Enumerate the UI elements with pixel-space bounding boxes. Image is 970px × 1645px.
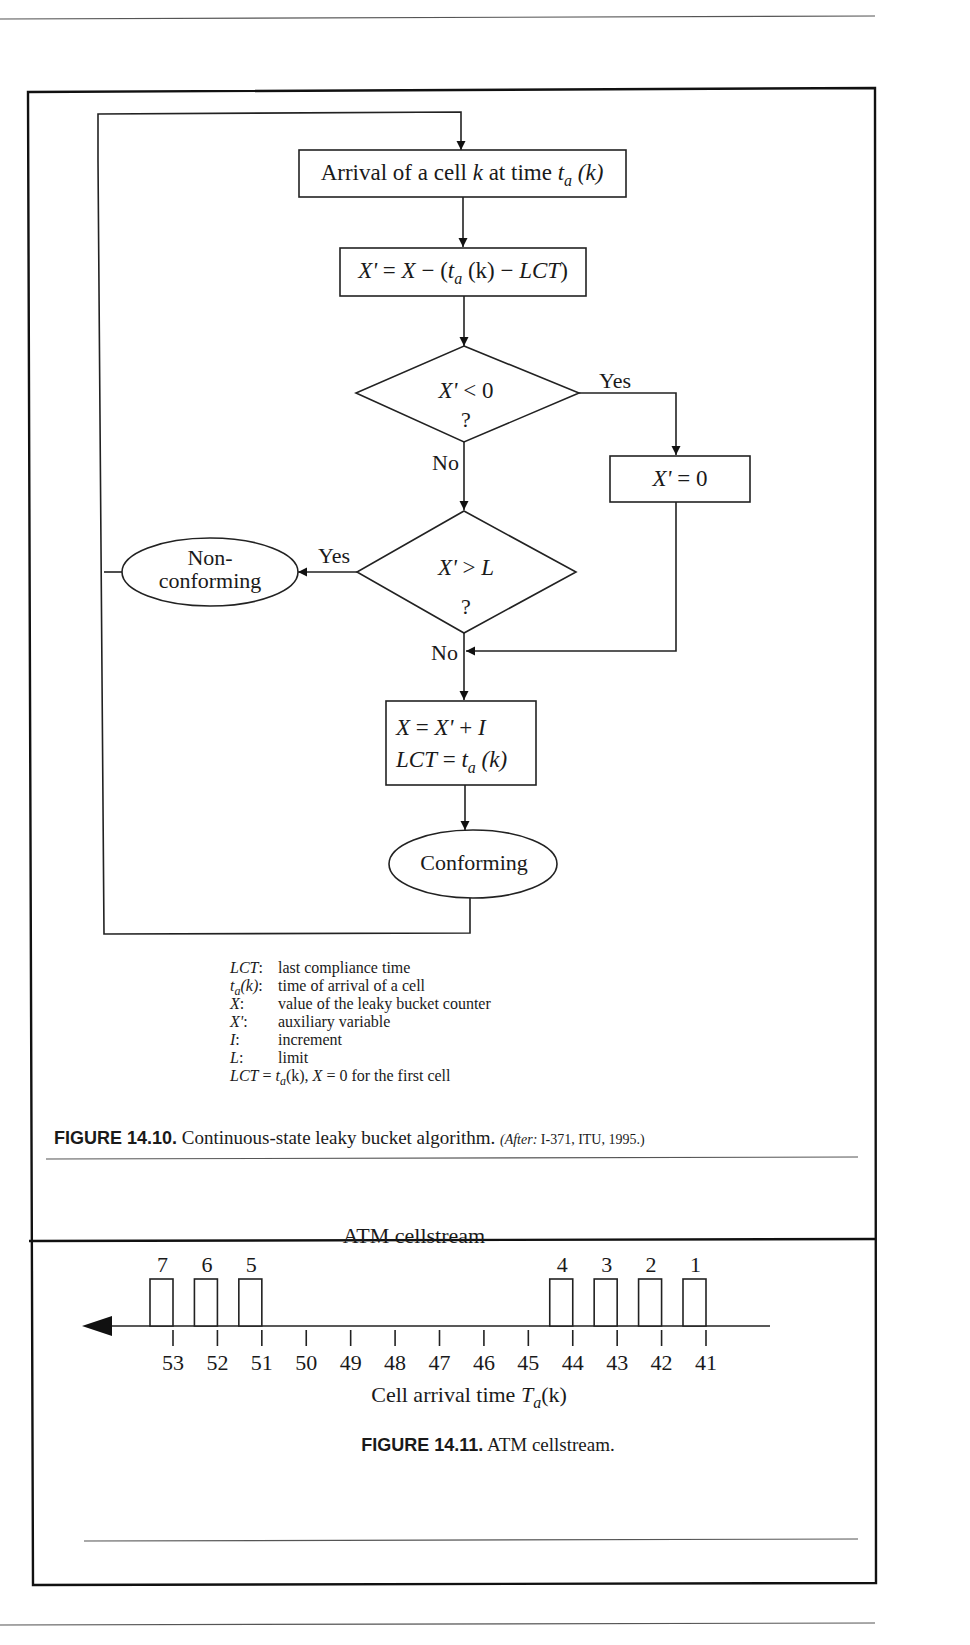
svg-text:Non-: Non-	[187, 545, 232, 570]
x-axis-label: Cell arrival time Ta(k)	[371, 1382, 567, 1411]
page-top-rule	[0, 16, 875, 19]
arrival-node: Arrival of a cell k at time ta (k)	[299, 150, 626, 197]
svg-text:L:: L:	[229, 1049, 243, 1066]
atm-cell: 7	[150, 1252, 173, 1326]
decision-xprime-less-than-zero: X' < 0 ?	[356, 346, 579, 442]
svg-text:Conforming: Conforming	[420, 850, 528, 875]
atm-cell: 4	[550, 1252, 573, 1326]
axis-ticks: 53525150494847464544434241	[162, 1330, 717, 1375]
atm-cellstream-chart: ATM cellstream 5352515049484746454443424…	[82, 1223, 858, 1541]
compute-xprime-node: X' = X − (ta (k) − LCT)	[340, 248, 586, 296]
cell-id-label: 2	[646, 1252, 657, 1277]
axis-tick-label: 43	[606, 1350, 628, 1375]
cell-id-label: 5	[246, 1252, 257, 1277]
axis-tick-label: 42	[651, 1350, 673, 1375]
axis-tick-label: 52	[206, 1350, 228, 1375]
label-decision1-yes: Yes	[599, 368, 631, 393]
cell-id-label: 3	[601, 1252, 612, 1277]
update-counter-node: X = X' + I LCT = ta (k)	[386, 701, 536, 785]
axis-tick-label: 51	[251, 1350, 273, 1375]
svg-text:time of arrival of a cell: time of arrival of a cell	[278, 977, 426, 994]
axis-tick-label: 45	[517, 1350, 539, 1375]
label-decision1-no: No	[432, 450, 459, 475]
decision-xprime-greater-than-limit: X' > L ?	[357, 511, 576, 633]
conforming-terminal: Conforming	[389, 830, 557, 898]
svg-text:LCT:: LCT:	[229, 959, 263, 976]
axis-tick-label: 44	[562, 1350, 584, 1375]
reset-xprime-node: X' = 0	[610, 456, 750, 502]
legend-footer: LCT = ta(k), X = 0 for the first cell	[229, 1067, 451, 1088]
svg-text:X' = X − (ta (k) − LCT): X' = X − (ta (k) − LCT)	[357, 258, 568, 287]
atm-cell: 3	[594, 1252, 617, 1326]
svg-text:auxiliary variable: auxiliary variable	[278, 1013, 390, 1031]
leaky-bucket-flowchart: Arrival of a cell k at time ta (k) X' = …	[46, 112, 858, 1159]
svg-text:X = X' + I: X = X' + I	[395, 715, 487, 740]
svg-text:X' < 0: X' < 0	[438, 378, 494, 403]
atm-cell: 1	[683, 1252, 706, 1326]
figure-14-10-caption: FIGURE 14.10. Continuous-state leaky buc…	[54, 1127, 645, 1148]
arrow-decision1-yes	[579, 393, 676, 455]
svg-text:X:: X:	[229, 995, 244, 1012]
svg-text:last compliance time: last compliance time	[278, 959, 410, 977]
figure-14-11-caption: FIGURE 14.11. ATM cellstream.	[361, 1434, 614, 1455]
atm-cell: 6	[194, 1252, 217, 1326]
legend-item: X': auxiliary variable	[229, 1013, 390, 1031]
cell-id-label: 6	[201, 1252, 212, 1277]
legend-item: I: increment	[229, 1031, 343, 1048]
svg-text:LCT = ta (k): LCT = ta (k)	[395, 747, 507, 776]
page-bottom-rule	[0, 1623, 875, 1625]
svg-text:increment: increment	[278, 1031, 343, 1048]
nonconforming-terminal: Non- conforming	[122, 538, 298, 606]
page-canvas: Arrival of a cell k at time ta (k) X' = …	[0, 0, 970, 1645]
svg-text:X' > L: X' > L	[437, 555, 494, 580]
axis-tick-label: 48	[384, 1350, 406, 1375]
caption-rule-2	[84, 1539, 858, 1541]
svg-text:X':: X':	[229, 1013, 248, 1030]
flowchart-legend: LCT: last compliance time ta(k): time of…	[229, 959, 491, 1088]
label-decision2-no: No	[431, 640, 458, 665]
axis-tick-label: 41	[695, 1350, 717, 1375]
axis-tick-label: 50	[295, 1350, 317, 1375]
svg-text:limit: limit	[278, 1049, 309, 1066]
axis-tick-label: 46	[473, 1350, 495, 1375]
cell-id-label: 7	[157, 1252, 168, 1277]
cells: 7654321	[150, 1252, 706, 1326]
legend-item: X: value of the leaky bucket counter	[229, 995, 491, 1013]
axis-tick-label: 53	[162, 1350, 184, 1375]
svg-text:I:: I:	[229, 1031, 240, 1048]
label-decision2-yes: Yes	[318, 543, 350, 568]
svg-text:conforming: conforming	[159, 568, 262, 593]
axis-arrow-left-icon	[82, 1316, 112, 1336]
svg-text:?: ?	[461, 594, 471, 619]
atm-cell: 2	[639, 1252, 662, 1326]
svg-text:value of the leaky bucket coun: value of the leaky bucket counter	[278, 995, 491, 1013]
axis-tick-label: 47	[429, 1350, 451, 1375]
legend-item: L: limit	[229, 1049, 309, 1066]
legend-item: LCT: last compliance time	[229, 959, 410, 977]
caption-rule	[46, 1157, 858, 1159]
svg-text:X' = 0: X' = 0	[652, 466, 708, 491]
axis-tick-label: 49	[340, 1350, 362, 1375]
cell-id-label: 4	[557, 1252, 568, 1277]
svg-text:?: ?	[461, 407, 471, 432]
chart-title: ATM cellstream	[343, 1223, 485, 1248]
atm-cell: 5	[239, 1252, 262, 1326]
cell-id-label: 1	[690, 1252, 701, 1277]
svg-text:Arrival of a cell k at time ta: Arrival of a cell k at time ta (k)	[321, 160, 604, 189]
